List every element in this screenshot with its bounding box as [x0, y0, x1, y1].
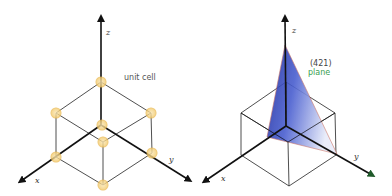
- atom: [97, 120, 108, 131]
- diagram-canvas: z x y unit cell: [0, 0, 392, 196]
- atom: [51, 152, 62, 163]
- x-axis: [205, 126, 286, 181]
- atom: [98, 180, 109, 191]
- miller-plane-panel: z x y (421) plane: [205, 18, 372, 186]
- unit-cell-axes: [21, 18, 189, 181]
- plane-index-label: (421): [310, 59, 332, 68]
- z-axis: [285, 18, 286, 126]
- atom: [96, 77, 107, 88]
- z-axis-label: z: [105, 28, 111, 37]
- x-axis-label: x: [221, 174, 226, 183]
- unit-cell-atoms: [51, 77, 158, 191]
- y-axis: [101, 125, 189, 180]
- plane-name-label: plane: [308, 68, 330, 77]
- atom: [98, 137, 109, 148]
- x-axis-label: x: [35, 176, 40, 185]
- unit-cell-annotation: unit cell: [124, 73, 156, 82]
- atom: [146, 108, 157, 119]
- unit-cell-panel: z x y unit cell: [21, 18, 189, 191]
- x-axis: [21, 125, 101, 181]
- atom: [51, 108, 62, 119]
- y-axis-label: y: [353, 152, 359, 161]
- z-axis-label: z: [291, 26, 297, 35]
- atom: [147, 148, 158, 159]
- unit-cell-cube: [56, 82, 152, 185]
- y-axis-label: y: [168, 155, 174, 164]
- y-axis: [286, 126, 372, 175]
